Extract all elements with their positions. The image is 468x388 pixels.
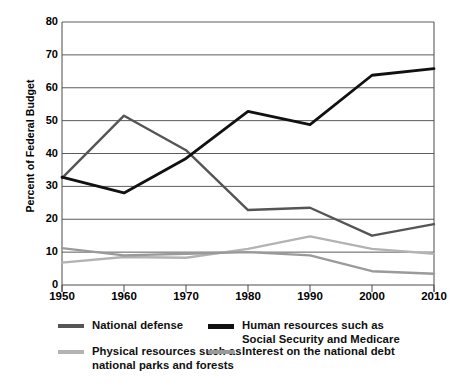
x-axis-tick-label: 1980 <box>218 291 278 303</box>
x-axis-tick-label: 1990 <box>280 291 340 303</box>
legend-item-label: Human resources such as Social Security … <box>242 318 400 347</box>
line-chart-figure: Percent of Federal Budget 01020304050607… <box>0 0 468 388</box>
data-series-line <box>62 116 434 236</box>
chart-plot-area: Percent of Federal Budget 01020304050607… <box>0 0 468 300</box>
data-series-line <box>62 236 434 262</box>
x-axis-tick-label: 2000 <box>342 291 402 303</box>
legend-item-national-defense: National defense <box>58 318 183 332</box>
x-axis-tick-label: 1950 <box>32 291 92 303</box>
legend-swatch-icon <box>208 350 234 354</box>
chart-legend: National defense Human resources such as… <box>0 318 468 388</box>
x-axis-tick-label: 2010 <box>404 291 464 303</box>
legend-swatch-icon <box>208 324 234 329</box>
x-axis-tick-label: 1970 <box>156 291 216 303</box>
legend-swatch-icon <box>58 350 84 354</box>
plot-svg <box>0 0 468 300</box>
legend-item-label: Interest on the national debt <box>242 344 395 358</box>
legend-item-human-resources: Human resources such as Social Security … <box>208 318 400 347</box>
x-axis-tick-label: 1960 <box>94 291 154 303</box>
legend-item-label: National defense <box>92 318 183 332</box>
x-axis-tick-labels: 1950196019701980199020002010 <box>0 291 468 309</box>
legend-item-interest-national-debt: Interest on the national debt <box>208 344 395 358</box>
legend-swatch-icon <box>58 324 84 328</box>
